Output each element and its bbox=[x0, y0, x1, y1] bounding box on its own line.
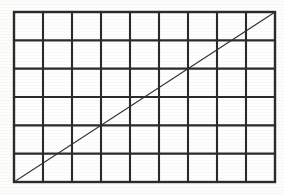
grid-cell bbox=[101, 69, 130, 97]
grid-cell bbox=[14, 12, 43, 40]
grid-cell bbox=[43, 154, 72, 182]
grid-cell bbox=[246, 12, 275, 40]
grid-cell bbox=[246, 154, 275, 182]
grid-cell bbox=[217, 12, 246, 40]
grid-cell bbox=[72, 154, 101, 182]
grid-cell bbox=[14, 40, 43, 68]
grid-cell bbox=[14, 97, 43, 125]
grid-cell bbox=[101, 40, 130, 68]
grid-cell bbox=[159, 12, 188, 40]
grid-cell bbox=[159, 40, 188, 68]
grid-cell bbox=[130, 154, 159, 182]
grid-cell bbox=[14, 125, 43, 153]
grid-cell bbox=[217, 154, 246, 182]
grid-cell bbox=[43, 97, 72, 125]
grid-cell bbox=[72, 97, 101, 125]
grid-cell bbox=[43, 40, 72, 68]
grid-cell bbox=[159, 69, 188, 97]
grid-cell bbox=[72, 40, 101, 68]
grid-cell bbox=[101, 12, 130, 40]
grid-cell bbox=[159, 154, 188, 182]
grid-cell bbox=[188, 12, 217, 40]
grid-cell bbox=[72, 69, 101, 97]
grid-cell bbox=[130, 125, 159, 153]
grid-cell bbox=[246, 97, 275, 125]
grid-cell bbox=[130, 69, 159, 97]
grid-cell bbox=[188, 97, 217, 125]
grid-cell bbox=[188, 40, 217, 68]
grid-cell bbox=[188, 154, 217, 182]
grid-with-diagonal-figure bbox=[0, 0, 284, 194]
grid-cell bbox=[14, 69, 43, 97]
grid-cell bbox=[43, 69, 72, 97]
grid-cell bbox=[246, 125, 275, 153]
grid-cell bbox=[72, 12, 101, 40]
grid-cell bbox=[246, 40, 275, 68]
grid-cell bbox=[101, 125, 130, 153]
grid-cell bbox=[246, 69, 275, 97]
grid-cell bbox=[43, 125, 72, 153]
figure-canvas bbox=[0, 0, 284, 194]
grid-cell bbox=[101, 97, 130, 125]
grid-cell bbox=[101, 154, 130, 182]
grid-cell bbox=[43, 12, 72, 40]
grid-cell bbox=[130, 97, 159, 125]
grid-cell bbox=[188, 125, 217, 153]
grid-cell bbox=[130, 40, 159, 68]
grid-cell bbox=[217, 40, 246, 68]
grid-cell bbox=[217, 97, 246, 125]
grid-cell bbox=[159, 125, 188, 153]
grid-cell bbox=[217, 69, 246, 97]
grid-cell bbox=[217, 125, 246, 153]
grid-cell bbox=[130, 12, 159, 40]
grid-cell bbox=[159, 97, 188, 125]
grid-cell bbox=[188, 69, 217, 97]
grid-cell bbox=[14, 154, 43, 182]
grid-cell bbox=[72, 125, 101, 153]
